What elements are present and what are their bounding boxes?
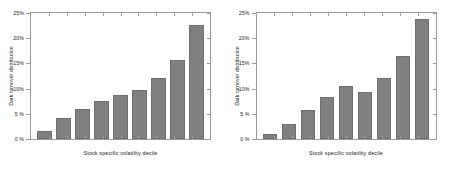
x-tick-mark-bottom	[121, 136, 122, 139]
x-tick-mark-top	[174, 13, 175, 16]
x-tick-mark-bottom	[192, 136, 193, 139]
x-tick-mark-top	[328, 13, 329, 16]
chart-panel-right: Dark turnover distribution 0 %5 %10%15%2…	[226, 0, 451, 169]
bar-slot	[261, 13, 280, 139]
bar-slot	[168, 13, 187, 139]
bar-slot	[394, 13, 413, 139]
x-tick-mark-top	[156, 13, 157, 16]
bar-slot	[187, 13, 206, 139]
bar-slot	[54, 13, 73, 139]
y-tick-label: 10%	[13, 86, 24, 92]
bar-slot	[92, 13, 111, 139]
bar-slot	[337, 13, 356, 139]
y-tick-mark-right	[207, 114, 210, 115]
y-tick-mark-right	[433, 13, 436, 14]
x-tick-mark-top	[49, 13, 50, 16]
bar-slot	[111, 13, 130, 139]
x-tick-mark-bottom	[274, 136, 275, 139]
y-tick-label: 20%	[13, 35, 24, 41]
x-tick-mark-bottom	[346, 136, 347, 139]
y-tick-mark-right	[207, 38, 210, 39]
x-tick-mark-bottom	[174, 136, 175, 139]
x-tick-mark-top	[85, 13, 86, 16]
bar	[75, 109, 89, 139]
bar	[151, 78, 165, 139]
bar-slot	[299, 13, 318, 139]
x-tick-mark-bottom	[310, 136, 311, 139]
y-tick-mark-right	[433, 63, 436, 64]
x-tick-mark-bottom	[400, 136, 401, 139]
bar-slot	[413, 13, 432, 139]
bar	[189, 25, 203, 139]
bar	[113, 95, 127, 139]
x-tick-mark-top	[418, 13, 419, 16]
plot-area-left: 0 %5 %10%15%20%25%	[30, 12, 211, 140]
y-tick-label: 25%	[13, 10, 24, 16]
bar	[320, 97, 334, 139]
y-tick-mark	[26, 114, 31, 115]
bar-slot	[356, 13, 375, 139]
x-tick-mark-top	[400, 13, 401, 16]
y-tick-label: 25%	[239, 10, 250, 16]
x-tick-mark-bottom	[85, 136, 86, 139]
bar	[56, 118, 70, 139]
x-tick-mark-top	[364, 13, 365, 16]
bar-slot	[130, 13, 149, 139]
figure-two-bar-charts: Dark turnover distribution 0 %5 %10%15%2…	[0, 0, 451, 169]
y-tick-mark	[252, 38, 257, 39]
y-tick-mark	[26, 139, 31, 140]
x-tick-mark-top	[103, 13, 104, 16]
y-tick-mark-right	[207, 63, 210, 64]
y-tick-mark	[26, 13, 31, 14]
bar	[132, 90, 146, 139]
x-tick-mark-bottom	[103, 136, 104, 139]
bar	[396, 56, 410, 139]
x-tick-mark-top	[292, 13, 293, 16]
y-tick-mark-right	[433, 89, 436, 90]
x-tick-mark-bottom	[292, 136, 293, 139]
y-tick-mark-right	[433, 114, 436, 115]
y-tick-mark	[26, 38, 31, 39]
y-tick-label: 5 %	[15, 111, 24, 117]
x-tick-mark-top	[138, 13, 139, 16]
y-tick-mark	[26, 89, 31, 90]
y-tick-mark-right	[207, 139, 210, 140]
y-tick-mark-right	[433, 139, 436, 140]
x-tick-mark-bottom	[328, 136, 329, 139]
x-axis-title-right: Stock specific volatility decile	[256, 150, 437, 156]
x-tick-mark-bottom	[418, 136, 419, 139]
bar	[94, 101, 108, 139]
bar	[301, 110, 315, 139]
x-tick-mark-top	[346, 13, 347, 16]
x-tick-mark-top	[310, 13, 311, 16]
bar-slot	[375, 13, 394, 139]
y-axis-title-left: Dark turnover distribution	[6, 12, 16, 140]
x-tick-mark-bottom	[138, 136, 139, 139]
bar	[358, 92, 372, 139]
x-tick-mark-top	[67, 13, 68, 16]
y-tick-mark	[252, 63, 257, 64]
bar	[282, 124, 296, 139]
y-tick-mark	[26, 63, 31, 64]
bar	[170, 60, 184, 139]
y-tick-label: 15%	[13, 60, 24, 66]
y-tick-mark	[252, 114, 257, 115]
y-tick-mark-right	[207, 13, 210, 14]
bar-slot	[318, 13, 337, 139]
x-tick-mark-top	[121, 13, 122, 16]
x-tick-mark-bottom	[49, 136, 50, 139]
y-tick-label: 0 %	[240, 136, 249, 142]
y-tick-label: 15%	[239, 60, 250, 66]
bar-slot	[149, 13, 168, 139]
y-tick-label: 20%	[239, 35, 250, 41]
y-tick-mark	[252, 89, 257, 90]
bar	[339, 86, 353, 139]
y-tick-mark	[252, 13, 257, 14]
y-tick-mark-right	[207, 89, 210, 90]
x-tick-mark-bottom	[382, 136, 383, 139]
x-tick-mark-top	[192, 13, 193, 16]
y-tick-mark	[252, 139, 257, 140]
x-axis-title-left: Stock specific volatility decile	[30, 150, 211, 156]
plot-area-right: 0 %5 %10%15%20%25%	[256, 12, 437, 140]
bar-slot	[73, 13, 92, 139]
